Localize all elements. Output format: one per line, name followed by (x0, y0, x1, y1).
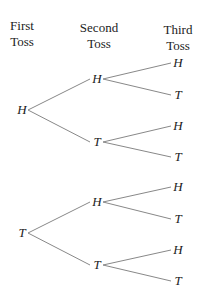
node-first-h: H (17, 103, 26, 117)
tree-edge (103, 142, 171, 157)
node-second-t: T (93, 135, 100, 149)
node-second-t: T (93, 258, 100, 272)
node-third-t: T (174, 88, 181, 102)
tree-edges (0, 0, 197, 298)
tree-edge (28, 202, 90, 233)
tree-edge (103, 187, 171, 202)
tree-edge (28, 233, 90, 265)
tree-edge (103, 265, 171, 281)
node-third-t: T (174, 212, 181, 226)
tree-edge (28, 79, 90, 110)
node-first-t: T (18, 226, 25, 240)
tree-edge (28, 110, 90, 142)
tree-edge (103, 250, 171, 265)
tree-edge (103, 63, 171, 79)
node-third-h: H (173, 243, 182, 257)
tree-edge (103, 202, 171, 219)
node-third-h: H (173, 119, 182, 133)
tree-edge (103, 79, 171, 95)
node-third-h: H (173, 180, 182, 194)
node-third-h: H (173, 56, 182, 70)
node-second-h: H (92, 72, 101, 86)
tree-edge (103, 126, 171, 142)
node-third-t: T (174, 150, 181, 164)
node-third-t: T (174, 274, 181, 288)
node-second-h: H (92, 195, 101, 209)
